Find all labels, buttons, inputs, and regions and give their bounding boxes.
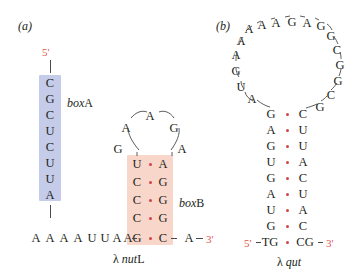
loop-connector: [271, 18, 275, 19]
loop-stem-connector: [306, 104, 317, 108]
loop-connector: [128, 128, 139, 150]
loop-connector: [241, 81, 244, 89]
loop-connector: [327, 24, 332, 30]
loop-connector: [236, 68, 239, 77]
loop-connector: [340, 52, 341, 59]
loop-connector: [331, 83, 337, 90]
loop-connector: [131, 111, 147, 118]
loop-connector: [334, 37, 338, 44]
loop-connector: [239, 37, 243, 45]
loop-connector: [339, 68, 341, 76]
loop-connector: [285, 16, 290, 17]
loop-connector: [321, 96, 327, 101]
loop-connector: [315, 18, 319, 20]
loop-stem-connector: [257, 100, 270, 107]
loop-connector: [300, 16, 305, 17]
loop-connector: [257, 21, 261, 23]
loop-connector: [245, 92, 253, 101]
loop-connector: [246, 26, 252, 31]
loop-connector: [159, 111, 174, 118]
rna-secondary-structure-figure: (a) 5' C G C U C U U A boxA A A G G A U …: [0, 0, 352, 278]
backbone-connectors: [0, 0, 352, 278]
loop-connector: [236, 52, 237, 61]
loop-connector: [171, 128, 179, 150]
